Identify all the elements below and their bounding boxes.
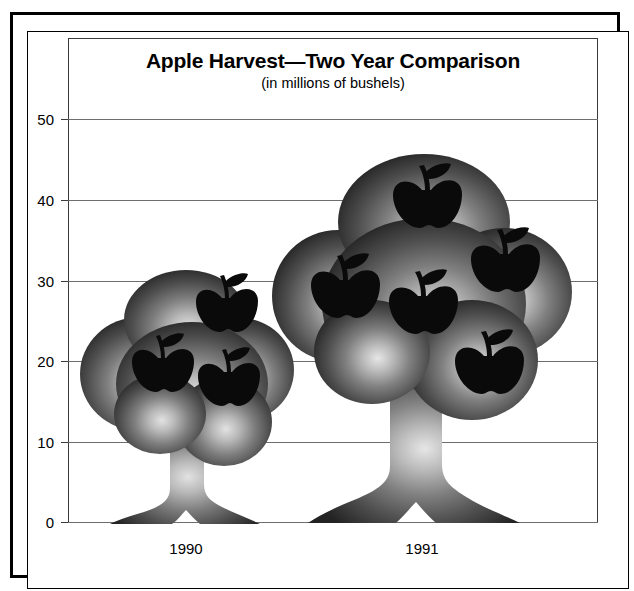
y-tick-10 — [61, 442, 68, 443]
chart-page: Apple Harvest—Two Year Comparison (in mi… — [0, 0, 634, 591]
y-axis-label-20: 20 — [14, 353, 54, 370]
y-tick-40 — [61, 200, 68, 201]
y-tick-30 — [61, 281, 68, 282]
y-tick-0 — [61, 522, 68, 523]
y-axis-label-0: 0 — [14, 514, 54, 531]
y-axis-label-30: 30 — [14, 273, 54, 290]
y-axis-label-50: 50 — [14, 111, 54, 128]
y-axis: 50 40 30 20 10 0 — [0, 0, 634, 591]
y-axis-label-10: 10 — [14, 434, 54, 451]
y-tick-20 — [61, 361, 68, 362]
y-axis-label-40: 40 — [14, 192, 54, 209]
y-tick-50 — [61, 119, 68, 120]
